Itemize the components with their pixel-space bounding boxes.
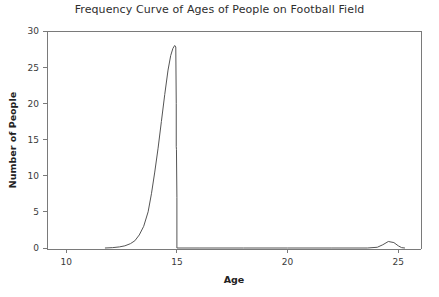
y-axis-ticks [43,31,47,248]
frequency-curve-line [105,45,405,248]
x-tick-label-15: 15 [171,257,182,267]
y-tick-label-20: 20 [28,99,40,109]
x-tick-label-25: 25 [393,257,404,267]
y-axis-title: Number of People [7,92,18,188]
y-tick-label-10: 10 [28,171,40,181]
y-tick-label-25: 25 [28,63,39,73]
x-tick-label-10: 10 [60,257,72,267]
y-tick-label-30: 30 [28,26,40,36]
y-axis-tick-labels: 30 25 20 15 10 5 0 [28,26,40,253]
y-tick-label-15: 15 [28,135,39,145]
frequency-curve-plot: 30 25 20 15 10 5 0 10 15 20 25 Age Numbe… [0,0,439,297]
x-axis-title: Age [224,274,245,285]
x-axis-ticks [66,249,398,253]
x-tick-label-20: 20 [282,257,294,267]
plot-frame-top-right [47,31,421,249]
y-tick-label-5: 5 [33,207,39,217]
y-tick-label-0: 0 [33,243,39,253]
chart-figure: Frequency Curve of Ages of People on Foo… [0,0,439,297]
x-axis-tick-labels: 10 15 20 25 [60,257,404,267]
